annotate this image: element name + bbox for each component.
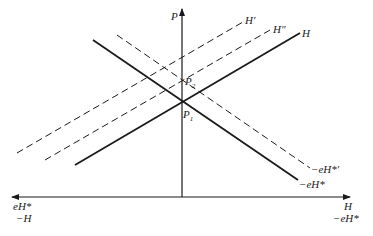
label-neg-eh-star: −eH* — [299, 178, 325, 190]
diagram-canvas: P H′ H″ H −eH*′ −eH* P2 P1 H −eH* eH* −H — [0, 0, 373, 236]
label-neg-eh-star-prime: −eH*′ — [311, 163, 340, 175]
label-p2: P2 — [184, 75, 196, 90]
line-h — [75, 33, 300, 165]
label-axis-right-bottom: −eH* — [333, 212, 359, 224]
label-axis-left-top: eH* — [13, 200, 32, 212]
label-axis-right-top: H — [343, 200, 353, 212]
label-h-double-prime: H″ — [272, 23, 286, 35]
label-p-axis: P — [170, 10, 178, 22]
line-neg-eh-star — [93, 40, 298, 180]
line-h-double-prime — [45, 30, 270, 160]
label-h: H — [301, 27, 311, 39]
label-h-prime: H′ — [244, 14, 256, 26]
label-axis-left-bottom: −H — [16, 212, 32, 224]
diagram: P H′ H″ H −eH*′ −eH* P2 P1 H −eH* eH* −H — [0, 0, 373, 236]
label-p1: P1 — [182, 108, 193, 123]
